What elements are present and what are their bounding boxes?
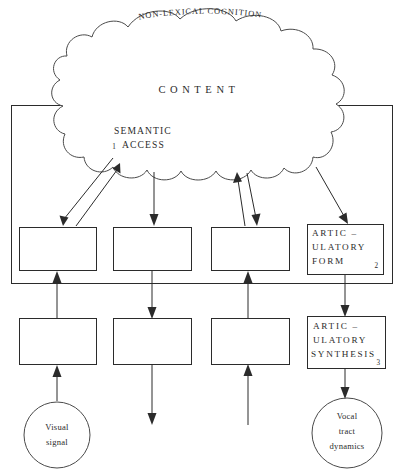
arrow-synthesis-to-vocal-tract: [341, 368, 350, 399]
articulatory-form-marker: 2: [374, 262, 378, 270]
arrow-visual-signal-to-row2box1: [53, 365, 62, 401]
semantic-access-label-line2: ACCESS: [122, 139, 165, 150]
arrow-row2box1-to-row1box1: [53, 271, 62, 318]
arrow-input-to-row2box3: [244, 364, 253, 425]
arrow-row2box3-to-row1box3: [244, 271, 253, 318]
diagram-canvas: NON-LEXICAL COGNITION CONTENT SEMANTIC A…: [0, 0, 399, 475]
semantic-access-marker: 1: [112, 143, 116, 151]
articulatory-synthesis-marker: 3: [376, 359, 380, 367]
arrow-cloud-to-box2: [150, 172, 159, 226]
visual-signal-line1: Visual: [45, 422, 69, 432]
articulatory-synthesis-line1: ARTIC –: [313, 321, 359, 331]
articulatory-form-line3: FORM: [312, 256, 345, 266]
arrow-cloud-to-box3-down: [247, 173, 261, 226]
vocal-tract-line3: dynamics: [330, 441, 365, 451]
non-lexical-cognition-diagram: NON-LEXICAL COGNITION CONTENT SEMANTIC A…: [0, 0, 399, 475]
vocal-tract-line2: tract: [339, 426, 356, 436]
row2-box-2: [114, 319, 192, 365]
arrow-box3-to-cloud-up: [233, 172, 245, 226]
articulatory-form-line2: ULATORY: [312, 242, 366, 252]
articulatory-synthesis-line3: SYNTHESIS: [311, 349, 376, 359]
arrow-articulatory-form-to-synthesis: [341, 275, 350, 317]
row1-box-2: [114, 228, 192, 271]
articulatory-form-line1: ARTIC –: [312, 228, 358, 238]
arrow-cloud-to-articulatory-form: [316, 167, 348, 224]
visual-signal-circle: [24, 402, 90, 468]
arrow-box1-to-semantic-up: [76, 163, 121, 226]
row2-box-3: [212, 319, 290, 365]
row1-box-3: [212, 228, 290, 271]
row2-box-1: [20, 319, 97, 365]
arrow-semantic-to-box1-down: [60, 158, 114, 226]
cloud-content-label: CONTENT: [158, 84, 239, 95]
articulatory-synthesis-line2: ULATORY: [313, 335, 367, 345]
arrow-row2box2-to-output: [148, 364, 157, 425]
semantic-access-label-line1: SEMANTIC: [114, 125, 172, 136]
row1-box-1: [20, 228, 97, 271]
visual-signal-line2: signal: [46, 437, 68, 447]
arrow-row1box2-to-row2box2: [148, 270, 157, 319]
vocal-tract-line1: Vocal: [337, 411, 358, 421]
